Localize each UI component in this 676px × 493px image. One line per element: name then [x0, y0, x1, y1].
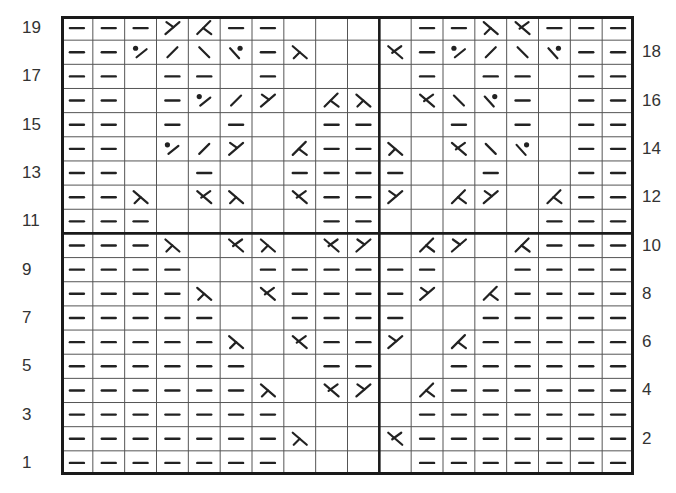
row-label-19: 19 [22, 19, 41, 36]
row-label-14: 14 [642, 140, 661, 157]
row-label-3: 3 [22, 406, 31, 423]
row-label-4: 4 [642, 381, 651, 398]
row-label-5: 5 [22, 357, 31, 374]
row-label-13: 13 [22, 164, 41, 181]
row-label-18: 18 [642, 43, 661, 60]
row-label-8: 8 [642, 285, 651, 302]
row-label-2: 2 [642, 430, 651, 447]
row-label-9: 9 [22, 261, 31, 278]
row-label-1: 1 [22, 454, 31, 471]
row-label-6: 6 [642, 333, 651, 350]
row-label-11: 11 [22, 212, 40, 229]
row-label-17: 17 [22, 67, 41, 84]
chart-grid [61, 16, 634, 475]
row-label-15: 15 [22, 116, 41, 133]
row-label-7: 7 [22, 309, 31, 326]
row-label-16: 16 [642, 92, 661, 109]
row-label-12: 12 [642, 188, 661, 205]
row-label-10: 10 [642, 237, 661, 254]
knitting-chart [61, 16, 634, 475]
